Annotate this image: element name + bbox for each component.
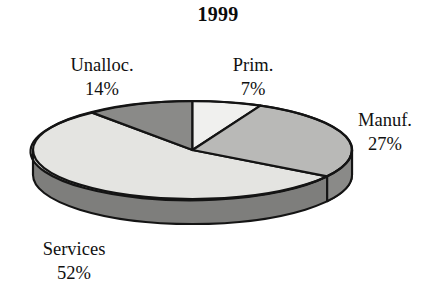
pie-label-manuf-value: 27% (336, 133, 434, 157)
pie-label-manuf: Manuf. 27% (336, 109, 434, 156)
pie-label-prim: Prim. 7% (203, 54, 303, 101)
pie-label-unalloc: Unalloc. 14% (42, 54, 162, 101)
pie-chart-figure: 1999 (0, 0, 436, 292)
pie-label-services: Services 52% (14, 238, 134, 285)
pie-label-unalloc-name: Unalloc. (42, 54, 162, 78)
pie-label-prim-name: Prim. (203, 54, 303, 78)
pie-label-manuf-name: Manuf. (336, 109, 434, 133)
pie-label-prim-value: 7% (203, 78, 303, 102)
pie-label-unalloc-value: 14% (42, 78, 162, 102)
pie-label-services-name: Services (14, 238, 134, 262)
pie-label-services-value: 52% (14, 262, 134, 286)
